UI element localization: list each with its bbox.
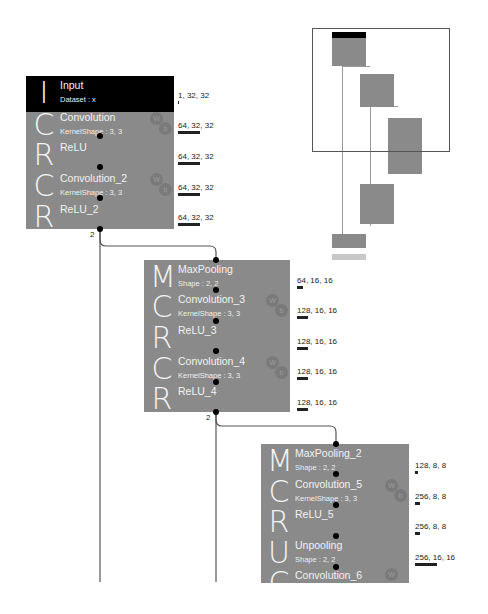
layer-param: KernelShape : 3, 3 <box>60 127 122 136</box>
layer-param: Shape : 2, 2 <box>178 279 218 288</box>
layer-param: Dataset : x <box>60 95 96 104</box>
layer-param: KernelShape : 3, 3 <box>60 188 122 197</box>
layer-name: Convolution_6 <box>295 569 362 581</box>
connector-dot[interactable] <box>97 164 103 170</box>
output-shape: 128, 16, 16 <box>297 398 337 411</box>
output-shape: 64, 16, 16 <box>297 276 333 289</box>
output-shape: 64, 32, 32 <box>178 213 214 226</box>
connector-dot[interactable] <box>213 348 219 354</box>
layer-param: Shape : 2, 2 <box>295 555 335 564</box>
layer-type-letter: R <box>32 198 56 229</box>
minimap[interactable] <box>326 28 462 260</box>
layer-type-letter: C <box>267 564 291 583</box>
output-shape: 1, 32, 32 <box>178 91 209 104</box>
output-shape: 256, 8, 8 <box>415 522 446 535</box>
bias-b-icon[interactable]: b <box>394 489 407 502</box>
connector-dot[interactable] <box>97 226 103 232</box>
layer-param: KernelShape : 3, 3 <box>178 309 240 318</box>
layer-name: Input <box>60 79 83 91</box>
layer-name: Convolution <box>60 111 115 123</box>
output-shape: 64, 32, 32 <box>178 183 214 196</box>
minimap-block-4 <box>360 184 394 224</box>
layer-name: MaxPooling <box>178 263 233 275</box>
output-count: 2 <box>206 413 210 422</box>
layer-relu-4[interactable]: R ReLU_4 <box>144 382 290 412</box>
connector-dot[interactable] <box>213 379 219 385</box>
output-shape: 128, 8, 8 <box>415 461 446 474</box>
connector-dot[interactable] <box>333 502 339 508</box>
output-shape: 128, 16, 16 <box>297 337 337 350</box>
minimap-block-5 <box>332 234 366 248</box>
bias-b-icon[interactable]: b <box>275 366 288 379</box>
layer-type-letter: R <box>150 380 174 412</box>
network-canvas[interactable]: I Input Dataset : x C Convolution Kernel… <box>0 0 488 614</box>
minimap-block-output <box>332 254 366 260</box>
layer-block-3[interactable]: M MaxPooling_2 Shape : 2, 2 C Convolutio… <box>261 444 409 583</box>
layer-name: ReLU <box>60 141 87 153</box>
layer-name: Unpooling <box>295 539 342 551</box>
connector-dot[interactable] <box>333 533 339 539</box>
weight-w-icon[interactable]: W <box>385 568 398 581</box>
layer-name: Convolution_3 <box>178 293 245 305</box>
output-shape: 128, 16, 16 <box>297 306 337 319</box>
layer-name: ReLU_2 <box>60 203 99 215</box>
layer-param: Shape : 2, 2 <box>295 463 335 472</box>
connector-dot[interactable] <box>333 564 339 570</box>
connector-dot[interactable] <box>97 103 103 109</box>
layer-block-1[interactable]: I Input Dataset : x C Convolution Kernel… <box>26 76 174 229</box>
connector-dot[interactable] <box>213 287 219 293</box>
layer-name: Convolution_5 <box>295 478 362 490</box>
output-shape: 64, 32, 32 <box>178 152 214 165</box>
layer-name: MaxPooling_2 <box>295 447 362 459</box>
connector-dot[interactable] <box>213 318 219 324</box>
layer-block-2[interactable]: M MaxPooling Shape : 2, 2 C Convolution_… <box>144 260 290 412</box>
output-shape: 128, 16, 16 <box>297 367 337 380</box>
output-shape: 256, 8, 8 <box>415 492 446 505</box>
minimap-viewport[interactable] <box>312 28 450 152</box>
layer-name: ReLU_4 <box>178 385 217 397</box>
layer-name: Convolution_4 <box>178 355 245 367</box>
layer-param: KernelShape : 3, 3 <box>178 371 240 380</box>
connector-dot[interactable] <box>333 441 339 447</box>
connector-dot[interactable] <box>333 471 339 477</box>
layer-name: Convolution_2 <box>60 172 127 184</box>
layer-name: ReLU_5 <box>295 508 334 520</box>
bias-b-icon[interactable]: b <box>159 183 172 196</box>
layer-name: ReLU_3 <box>178 324 217 336</box>
bias-b-icon[interactable]: b <box>159 122 172 135</box>
output-shape: 64, 32, 32 <box>178 121 214 134</box>
connector-dot[interactable] <box>213 409 219 415</box>
layer-param: KernelShape : 3, 3 <box>295 494 357 503</box>
connector-dot[interactable] <box>213 257 219 263</box>
connector-dot[interactable] <box>97 133 103 139</box>
output-shape: 256, 16, 16 <box>415 553 455 566</box>
output-count: 2 <box>90 230 94 239</box>
bias-b-icon[interactable]: b <box>275 304 288 317</box>
layer-relu-2[interactable]: R ReLU_2 <box>26 200 174 229</box>
connector-dot[interactable] <box>97 195 103 201</box>
